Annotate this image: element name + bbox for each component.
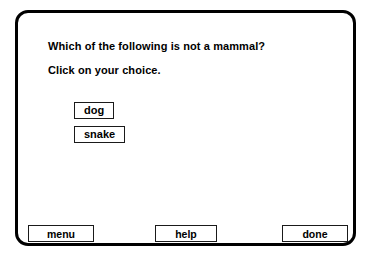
question-prompt: Which of the following is not a mammal? bbox=[48, 39, 338, 53]
done-button[interactable]: done bbox=[282, 225, 348, 242]
choice-list: dog snake bbox=[74, 102, 125, 150]
navigation-bar: menu help done bbox=[18, 225, 353, 245]
menu-button[interactable]: menu bbox=[28, 225, 94, 242]
question-block: Which of the following is not a mammal? … bbox=[48, 39, 338, 87]
question-instruction: Click on your choice. bbox=[48, 63, 338, 77]
quiz-window: Which of the following is not a mammal? … bbox=[15, 10, 356, 246]
choice-button-snake[interactable]: snake bbox=[74, 126, 125, 143]
choice-button-dog[interactable]: dog bbox=[74, 102, 114, 119]
help-button[interactable]: help bbox=[155, 225, 217, 242]
